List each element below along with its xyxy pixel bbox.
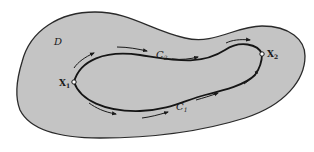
diagram-canvas: D X1 X2 C2 C1 [0, 0, 314, 152]
region-d [17, 12, 305, 138]
point-x1-marker [72, 80, 76, 84]
point-x2-marker [260, 52, 264, 56]
region-label: D [53, 36, 62, 47]
